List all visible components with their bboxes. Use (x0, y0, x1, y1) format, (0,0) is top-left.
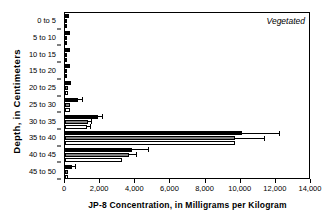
bar-series-2 (65, 136, 311, 140)
bar-series-2 (65, 120, 311, 124)
bar-series-3 (65, 24, 311, 28)
bar-series-1 (65, 48, 311, 52)
bar-series-1 (65, 64, 311, 68)
y-axis-tick-label: 15 to 20 (29, 66, 56, 75)
bar-series-1 (65, 14, 311, 18)
bar-segment (65, 98, 78, 102)
bar-segment (65, 24, 67, 28)
plot-area: Vegetated (64, 12, 310, 179)
bar-group (65, 130, 309, 147)
bar-series-1 (65, 148, 311, 152)
bar-segment (65, 19, 67, 23)
bar-series-2 (65, 153, 311, 157)
x-axis-tick-mark (134, 179, 135, 183)
bar-group (65, 46, 309, 63)
bar-segment (65, 148, 132, 152)
error-bar-cap (279, 131, 280, 136)
y-axis-tick-mark (57, 45, 61, 46)
y-axis-tick-mark (57, 28, 61, 29)
y-axis-tick-label: 30 to 35 (29, 116, 56, 125)
bar-group (65, 97, 309, 114)
chart-container: Depth, in Centimeters 0 to 55 to 1010 to… (0, 0, 328, 218)
bar-series-2 (65, 36, 311, 40)
x-axis-tick-label: 4,000 (125, 184, 144, 193)
x-axis-tick-mark (99, 179, 100, 183)
error-bar-cap (102, 114, 103, 119)
bar-series-2 (65, 170, 311, 174)
bar-rows (65, 13, 309, 178)
bar-segment (65, 136, 235, 140)
error-bar-cap (90, 124, 91, 129)
y-axis-tick-mark (57, 145, 61, 146)
bar-segment (65, 41, 67, 45)
bar-series-2 (65, 86, 311, 90)
bar-segment (65, 53, 67, 57)
error-bar-line (242, 133, 279, 134)
bar-series-1 (65, 131, 311, 135)
bar-series-3 (65, 141, 311, 145)
bar-group (65, 163, 309, 180)
y-axis-tick-mark (57, 128, 61, 129)
bar-segment (65, 74, 67, 78)
error-bar-cap (82, 97, 83, 102)
x-axis-tick-label: 0 (62, 184, 66, 193)
bar-segment (65, 158, 122, 162)
y-axis-tick-mark (57, 62, 61, 63)
bar-segment (65, 120, 88, 124)
error-bar-cap (148, 147, 149, 152)
x-axis-tick-label: 8,000 (195, 184, 214, 193)
bar-segment (65, 103, 70, 107)
bar-group (65, 147, 309, 164)
bar-segment (65, 14, 69, 18)
error-bar-cap (91, 119, 92, 124)
y-axis-tick-label: 0 to 5 (37, 16, 56, 25)
bar-group (65, 13, 309, 30)
bar-series-3 (65, 108, 311, 112)
bar-segment (65, 170, 68, 174)
bar-segment (65, 58, 67, 62)
y-axis-tick-mark (57, 78, 61, 79)
error-bar-cap (75, 164, 76, 169)
bar-series-1 (65, 31, 311, 35)
error-bar-cap (264, 136, 265, 141)
x-axis-tick-mark (205, 179, 206, 183)
x-axis-tick-label: 6,000 (160, 184, 179, 193)
x-axis-tick-label: 2,000 (90, 184, 109, 193)
y-axis-tick-label: 10 to 15 (29, 49, 56, 58)
bar-series-3 (65, 58, 311, 62)
bar-series-3 (65, 41, 311, 45)
bar-segment (65, 64, 70, 68)
x-axis-tick-label: 14,000 (299, 184, 322, 193)
bar-segment (65, 91, 68, 95)
bar-segment (65, 115, 98, 119)
bar-segment (65, 125, 87, 129)
bar-group (65, 30, 309, 47)
bar-series-2 (65, 69, 311, 73)
bar-series-2 (65, 53, 311, 57)
bar-series-3 (65, 158, 311, 162)
bar-series-1 (65, 98, 311, 102)
x-axis-tick-mark (310, 179, 311, 183)
bar-segment (65, 141, 235, 145)
bar-segment (65, 48, 70, 52)
y-axis-tick-label: 40 to 45 (29, 149, 56, 158)
bar-series-1 (65, 81, 311, 85)
x-axis-tick-mark (64, 179, 65, 183)
bar-series-3 (65, 125, 311, 129)
y-axis-tick-label: 25 to 30 (29, 99, 56, 108)
y-axis-tick-mark (57, 162, 61, 163)
x-axis-tick-mark (169, 179, 170, 183)
bar-group (65, 113, 309, 130)
bar-segment (65, 131, 242, 135)
x-axis-tick-mark (275, 179, 276, 183)
bar-group (65, 63, 309, 80)
bar-series-2 (65, 103, 311, 107)
x-axis-tick-label: 10,000 (228, 184, 251, 193)
x-axis-ticks: 02,0004,0006,0008,00010,00012,00014,000 (64, 179, 310, 199)
bar-segment (65, 69, 67, 73)
bar-series-3 (65, 91, 311, 95)
bar-segment (65, 108, 70, 112)
error-bar-line (132, 149, 148, 150)
y-axis-tick-mark (57, 179, 61, 180)
bar-segment (65, 86, 68, 90)
